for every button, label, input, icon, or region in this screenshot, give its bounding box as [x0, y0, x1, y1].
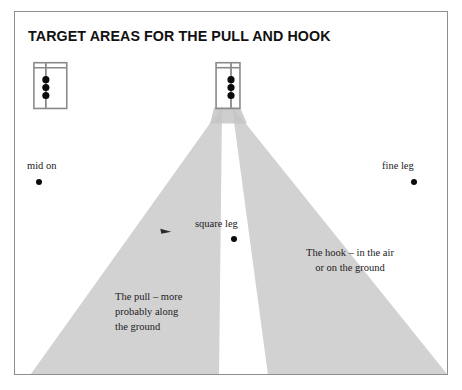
- label-fine-leg: fine leg: [382, 160, 414, 172]
- crease-box-left: [34, 63, 67, 109]
- label-square-leg: square leg: [195, 218, 238, 230]
- fielder-dot-mid-on: [36, 179, 42, 185]
- annotation-hook: The hook – in the air or on the ground: [285, 246, 415, 276]
- bowlers-end-wicket: [34, 63, 67, 109]
- stump-dot-left-1: [42, 76, 49, 83]
- page-title: TARGET AREAS FOR THE PULL AND HOOK: [28, 27, 331, 45]
- crease-box-right: [216, 63, 240, 109]
- batsmans-end-wicket: [216, 63, 240, 109]
- stump-dot-left-2: [42, 84, 49, 91]
- stump-dot-right-1: [227, 76, 234, 83]
- stump-dot-right-3: [227, 92, 234, 99]
- stump-dot-left-3: [42, 92, 49, 99]
- figure-frame: TARGET AREAS FOR THE PULL AND HOOK mid o…: [14, 11, 448, 375]
- fielder-dot-fine-leg: [411, 179, 417, 185]
- hook-target-wedge: [232, 106, 447, 374]
- figure-container: TARGET AREAS FOR THE PULL AND HOOK mid o…: [0, 0, 462, 390]
- label-mid-on: mid on: [27, 160, 56, 172]
- stump-dot-right-2: [227, 84, 234, 91]
- annotation-pull: The pull – more probably along the groun…: [115, 290, 245, 335]
- crease-shadow: [210, 107, 247, 123]
- fielder-dot-square-leg: [231, 236, 237, 242]
